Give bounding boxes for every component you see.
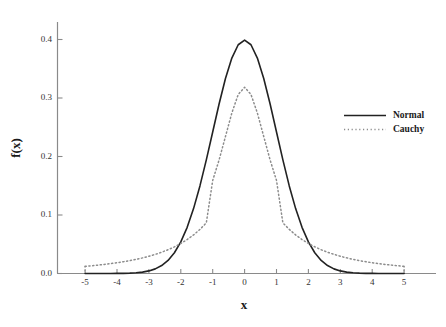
- y-tick-label: 0.1: [26, 209, 52, 219]
- x-tick-label: -2: [169, 277, 193, 287]
- y-tick-label: 0.0: [26, 268, 52, 278]
- x-tick-label: -4: [105, 277, 129, 287]
- x-tick-label: 5: [392, 277, 416, 287]
- x-tick-label: 0: [233, 277, 257, 287]
- x-tick-label: -5: [73, 277, 97, 287]
- y-axis-label: f(x): [8, 118, 24, 178]
- legend-label-cauchy: Cauchy: [393, 124, 424, 134]
- legend-label-normal: Normal: [393, 110, 424, 120]
- legend-sample-lines: [344, 116, 386, 130]
- x-tick-label: 2: [296, 277, 320, 287]
- series-line-normal: [85, 40, 404, 273]
- data-series-group: [85, 40, 404, 273]
- y-tick-label: 0.3: [26, 92, 52, 102]
- x-tick-label: 1: [265, 277, 289, 287]
- chart-figure: -5-4-3-2-1012345 0.00.10.20.30.4 x f(x) …: [0, 0, 446, 327]
- x-tick-label: -3: [137, 277, 161, 287]
- x-tick-label: 4: [360, 277, 384, 287]
- x-tick-label: 3: [328, 277, 352, 287]
- y-axis-ticks: [58, 40, 63, 274]
- y-tick-label: 0.4: [26, 34, 52, 44]
- y-tick-label: 0.2: [26, 151, 52, 161]
- series-line-cauchy: [85, 87, 404, 266]
- x-tick-label: -1: [201, 277, 225, 287]
- x-axis-label: x: [228, 297, 260, 313]
